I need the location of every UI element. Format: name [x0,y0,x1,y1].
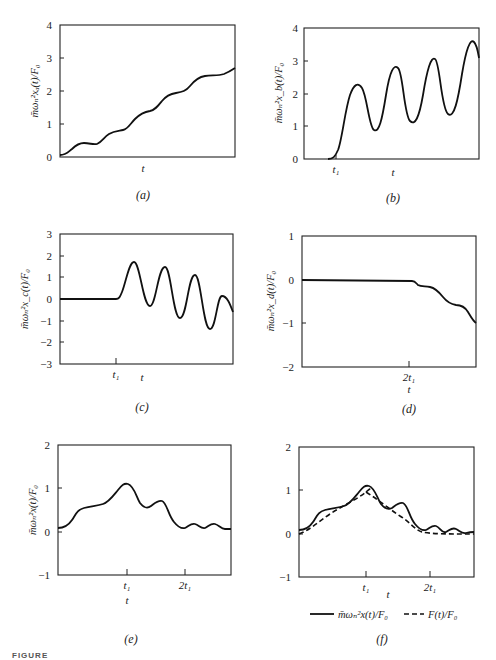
caption-c: (c) [135,400,148,414]
xlabel-f: t [386,588,390,600]
plot-frame-b [304,28,479,159]
ytick: 1 [45,482,51,494]
xlabel-c: t [140,371,144,383]
legend-response-label: m̄ωₙ²x(t)/F₀ [338,609,388,621]
plot-frame-f [299,447,474,577]
ytick: 0 [47,293,53,305]
subplot-c: 3 2 1 0 −1 −2 −3 t₁ t (c) m̄ωₙ²x_c(t)/F₀ [19,228,233,414]
figure-canvas: 0 1 2 3 4 t (a) m̄ωₙ²xₐ(t)/F₀ 0 1 2 3 4 … [0,0,496,660]
curve-f-response [299,486,474,533]
xtick-t1-e: t₁ [124,579,131,591]
xtick-t1-f: t₁ [363,581,370,593]
caption-b: (b) [386,191,400,205]
ytick: 0 [293,153,299,165]
ytick: 2 [45,439,51,451]
ytick: 0 [289,274,295,286]
caption-e: (e) [124,632,137,646]
ytick: −1 [40,315,52,327]
ytick: 1 [293,120,299,132]
ytick: 0 [45,526,51,538]
ytick: 2 [286,441,292,453]
ytick: −2 [40,336,52,348]
xtick-2t1-d: 2t₁ [403,371,416,383]
ytick: −3 [40,358,52,370]
ytick: 3 [47,228,53,240]
ytick: 1 [289,230,295,242]
ytick: 3 [293,55,299,67]
ytick: 2 [293,88,299,100]
ytick: 4 [293,22,299,34]
xtick-2t1-e: 2t₁ [179,579,192,591]
ytick: 0 [286,528,292,540]
ytick: 1 [47,118,53,130]
subplot-e: 2 1 0 −1 t₁ 2t₁ t (e) m̄ωₙ²x(t)/F₀ FIGUR… [12,439,231,660]
ylabel-b: m̄ωₙ²x_b(t)/F₀ [273,62,285,123]
xtick-t1-c: t₁ [113,368,120,380]
curve-f-force [299,489,474,534]
caption-a: (a) [136,188,150,202]
ytick: 0 [47,151,53,163]
subplot-f: 2 1 0 −1 t₁ 2t₁ t m̄ωₙ²x(t)/F₀ F(t)/F₀ (… [279,441,474,646]
ytick: −1 [38,569,50,581]
plot-frame-d [302,236,476,367]
plot-frame-e [58,445,231,575]
curve-d [302,280,476,323]
ytick: 1 [286,484,292,496]
xlabel-b: t [391,166,395,178]
xlabel-a: t [141,162,145,174]
ylabel-c: m̄ωₙ²x_c(t)/F₀ [19,269,31,329]
curve-b [328,41,479,159]
xlabel-e: t [125,594,129,606]
ytick: −1 [279,571,291,583]
ylabel-e: m̄ωₙ²x(t)/F₀ [27,485,39,535]
xlabel-d: t [407,383,411,395]
ytick: −1 [282,317,294,329]
ytick: 3 [47,52,53,64]
legend-force-label: F(t)/F₀ [427,609,458,621]
xtick-t1-b: t₁ [333,163,340,175]
ylabel-a: m̄ωₙ²xₐ(t)/F₀ [29,64,41,117]
xtick-2t1-f: 2t₁ [424,581,437,593]
ytick: 2 [47,250,53,262]
legend-f: m̄ωₙ²x(t)/F₀ F(t)/F₀ [310,609,458,621]
curve-a [60,68,235,155]
ytick: −2 [282,361,294,373]
plot-frame-a [60,25,235,157]
ytick: 1 [47,271,53,283]
figure-label: FIGURE [12,651,48,660]
ylabel-d: m̄ωₙ²x_d(t)/F₀ [265,270,277,331]
ytick: 4 [47,19,53,31]
subplot-a: 0 1 2 3 4 t (a) m̄ωₙ²xₐ(t)/F₀ [29,19,235,202]
caption-f: (f) [376,632,387,646]
subplot-b: 0 1 2 3 4 t₁ t (b) m̄ωₙ²x_b(t)/F₀ [273,22,479,205]
subplot-d: 1 0 −1 −2 2t₁ t (d) m̄ωₙ²x_d(t)/F₀ [265,230,476,416]
caption-d: (d) [402,402,416,416]
curve-e [58,484,231,529]
ytick: 2 [47,85,53,97]
curve-c [60,262,233,329]
